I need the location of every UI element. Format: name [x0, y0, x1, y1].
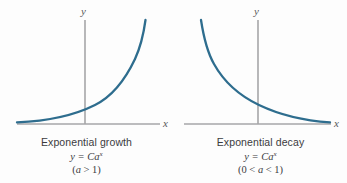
caption-condition: (0 < a < 1): [174, 163, 347, 176]
panel-exponential-growth: y x Exponential growth y = Cax (a > 1): [0, 0, 173, 183]
condition-open: (0 <: [238, 164, 258, 175]
panel-exponential-decay: y x Exponential decay y = Cax (0 < a < 1…: [174, 0, 347, 183]
caption-title: Exponential decay: [174, 136, 347, 148]
exponential-growth-plot: [0, 0, 173, 132]
x-axis-label: x: [163, 118, 168, 129]
formula-lhs: y = Ca: [70, 151, 99, 162]
y-axis-label: y: [81, 6, 86, 17]
exponential-growth-curve: [17, 20, 146, 122]
condition-rest: < 1): [263, 164, 283, 175]
formula-exponent: x: [274, 150, 277, 158]
caption-formula: y = Cax: [174, 150, 347, 163]
caption-title: Exponential growth: [0, 136, 173, 148]
formula-exponent: x: [100, 150, 103, 158]
condition-rest: > 1): [81, 164, 101, 175]
exponential-decay-curve: [201, 20, 330, 122]
exponential-decay-plot: [174, 0, 347, 132]
caption-formula: y = Cax: [0, 150, 173, 163]
y-axis-label: y: [254, 6, 259, 17]
caption-condition: (a > 1): [0, 163, 173, 176]
caption-exponential-decay: Exponential decay y = Cax (0 < a < 1): [174, 136, 347, 176]
caption-exponential-growth: Exponential growth y = Cax (a > 1): [0, 136, 173, 176]
x-axis-label: x: [334, 118, 339, 129]
formula-lhs: y = Ca: [244, 151, 273, 162]
exponential-functions-figure: y x Exponential growth y = Cax (a > 1) y…: [0, 0, 347, 183]
